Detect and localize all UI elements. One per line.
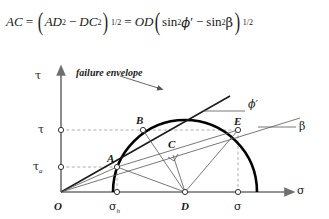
tau-a-tick-label: τa <box>33 161 43 175</box>
segment-AD <box>117 167 185 192</box>
marker-sigma-h-tick <box>114 189 119 194</box>
sigma-h-tick-label: σh <box>109 201 120 215</box>
segment-DE <box>185 130 238 192</box>
tau-a-tick-sub: a <box>39 167 43 175</box>
marker-point-b <box>140 127 145 132</box>
tau-axis-label: τ <box>35 70 41 81</box>
sigma-axis-label: σ <box>297 185 305 196</box>
mohr-circle-diagram: τ σ τ τa σh σ O A B C D E failure envelo… <box>0 40 329 219</box>
equation-equals-1: = <box>23 14 36 30</box>
beta-line <box>61 118 300 192</box>
failure-envelope-label: failure envelope <box>76 68 142 78</box>
beta-angle-label: β <box>299 121 305 132</box>
diagram-canvas <box>0 40 329 219</box>
equation-phi: ϕ <box>181 15 190 30</box>
equation-paren-open-2: ( <box>155 13 160 32</box>
marker-point-a <box>114 164 119 169</box>
equation-power-1: 1/2 <box>110 18 121 27</box>
phi-prime-angle-label: ϕ′ <box>248 99 258 110</box>
segment-BD <box>143 130 185 192</box>
segment-OA <box>61 167 117 192</box>
equation-term-dc: DC <box>79 14 97 30</box>
equation-equals-2: = <box>121 14 134 30</box>
equation-power-2: 1/2 <box>242 18 253 27</box>
marker-point-e <box>235 127 240 132</box>
equation-paren-open-1: ( <box>38 13 43 32</box>
figure-page: AC = ( AD 2 − DC 2 ) 1/2 = OD ( sin 2 ϕ … <box>0 0 329 219</box>
point-label-c: C <box>168 139 175 150</box>
equation-term-od: OD <box>135 14 154 30</box>
point-label-a: A <box>107 153 114 164</box>
point-label-b: B <box>136 115 143 126</box>
marker-point-d <box>182 189 187 194</box>
equation-beta: β <box>226 15 234 30</box>
equation-term-ad: AD <box>45 14 62 30</box>
equation-minus-2: − <box>193 14 206 30</box>
marker-tau-a-tick <box>58 164 63 169</box>
tau-tick-label: τ <box>38 124 44 135</box>
equation-lhs: AC <box>6 14 23 30</box>
construction-lines <box>61 130 238 192</box>
point-label-o: O <box>54 201 62 212</box>
sigma-tick-label: σ <box>234 201 242 212</box>
marker-sigma-tick <box>235 189 240 194</box>
sigma-h-tick-sub: h <box>117 207 121 215</box>
point-label-d: D <box>181 201 189 212</box>
equation-block: AC = ( AD 2 − DC 2 ) 1/2 = OD ( sin 2 ϕ … <box>6 6 324 38</box>
marker-tau-tick <box>58 127 63 132</box>
equation-paren-close-2: ) <box>235 13 240 32</box>
sigma-h-tick-base: σ <box>109 200 117 213</box>
segment-AE <box>117 130 238 167</box>
segment-CD <box>173 155 185 192</box>
equation-sin-2: sin <box>206 14 221 30</box>
equation-paren-close-1: ) <box>103 13 108 32</box>
equation-minus-1: − <box>66 14 79 30</box>
point-label-e: E <box>234 116 241 127</box>
equation-term-dc-exponent: 2 <box>97 18 101 27</box>
equation-sin-1: sin <box>162 14 177 30</box>
